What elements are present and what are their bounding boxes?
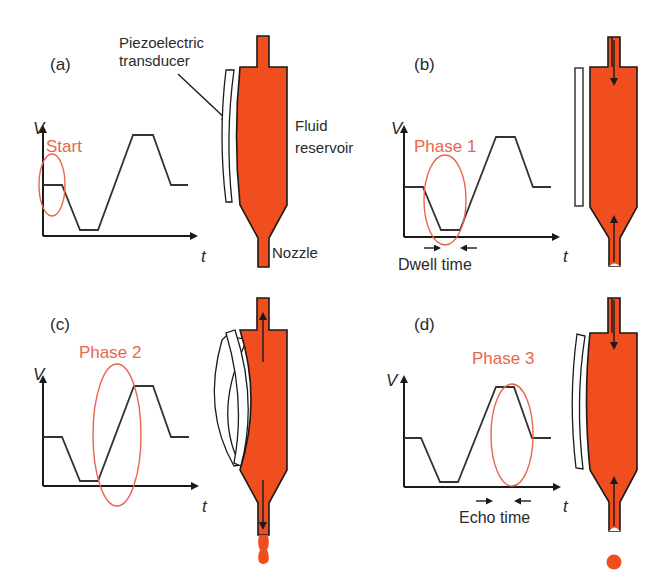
timing-label-d: Echo time: [459, 509, 530, 526]
fluid-reservoir-a: [237, 36, 288, 267]
panel-label-b: (b): [414, 55, 435, 74]
nozzle-annotation: Nozzle: [272, 244, 318, 261]
y-axis-label-c: V: [33, 365, 46, 384]
detached-droplet-d: [607, 555, 622, 570]
panel-label-a: (a): [50, 55, 71, 74]
fluid-annotation-line1: Fluid: [295, 117, 328, 134]
x-axis-label-a: t: [201, 247, 207, 266]
timing-label-b: Dwell time: [398, 256, 472, 273]
piezo-pointer-arrow: [178, 74, 228, 121]
x-axis-label-c: t: [202, 497, 208, 516]
waveform-d: [404, 387, 551, 482]
highlight-ellipse-b: [424, 155, 466, 245]
piezo-transducer-d: [572, 334, 585, 469]
x-axis-label-d: t: [563, 497, 569, 516]
y-axis-label-b: V: [391, 119, 404, 138]
piezo-annotation-line1: Piezoelectric: [119, 34, 205, 51]
voltage-graph-c: V t Phase 2: [33, 343, 208, 516]
piezo-transducer-a: [222, 70, 234, 202]
fluid-annotation-line2: reservoir: [295, 139, 353, 156]
waveform-c: [43, 386, 189, 481]
highlight-ellipse-c: [93, 364, 141, 506]
piezo-transducer-b: [575, 68, 583, 206]
panel-b: (b) V t Phase 1 Dwell time: [391, 37, 637, 273]
piezo-annotation-line2: transducer: [119, 52, 190, 69]
panel-label-d: (d): [414, 315, 435, 334]
phase-label-d: Phase 3: [472, 349, 534, 368]
y-axis-label-a: V: [33, 119, 46, 138]
panel-d: (d) V t Phase 3 Echo time: [386, 298, 637, 570]
phase-label-a: Start: [46, 137, 82, 156]
inkjet-diagram: (a) V t Start Piezoelectric transducer F…: [0, 0, 664, 586]
panel-c: (c) V t Phase 2: [33, 298, 287, 564]
highlight-ellipse-d: [491, 384, 533, 486]
y-axis-label-d: V: [386, 371, 399, 390]
panel-label-c: (c): [50, 315, 70, 334]
voltage-graph-b: V t Phase 1 Dwell time: [391, 119, 569, 273]
voltage-graph-d: V t Phase 3 Echo time: [386, 349, 569, 526]
ejecting-droplet-c: [258, 535, 269, 564]
voltage-graph-a: V t Start: [33, 119, 207, 266]
phase-label-c: Phase 2: [79, 343, 141, 362]
phase-label-b: Phase 1: [414, 137, 476, 156]
x-axis-label-b: t: [563, 247, 569, 266]
panel-a: (a) V t Start Piezoelectric transducer F…: [33, 34, 353, 267]
